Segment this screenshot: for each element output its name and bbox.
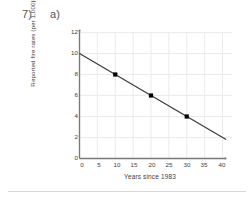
data-point-marker [185, 114, 189, 118]
chart-figure: 7) a) Reported fire rates (per 1,000) Ye… [0, 0, 252, 197]
data-point-marker [113, 72, 117, 76]
gridlines [80, 33, 233, 159]
data-point-marker [149, 93, 153, 97]
plot-area [0, 0, 252, 197]
y-axis-cap [78, 29, 80, 31]
page-separator-rule [8, 191, 246, 192]
x-axis-cap [224, 157, 226, 159]
